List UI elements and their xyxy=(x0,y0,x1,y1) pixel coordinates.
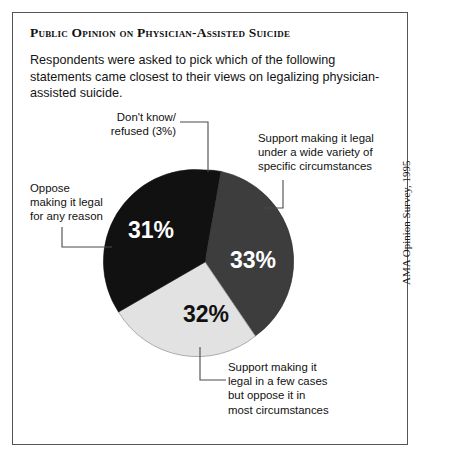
callout-few-cases: Support making it legal in a few cases b… xyxy=(228,360,358,417)
callout-dont-know: Don't know/ refused (3%) xyxy=(86,110,176,138)
callout-oppose: Oppose making it legal for any reason xyxy=(30,181,126,224)
chart-page: Public Opinion on Physician-Assisted Sui… xyxy=(0,0,449,467)
source-credit: AMA Opinion Survey, 1995 xyxy=(400,160,412,285)
chart-subtitle: Respondents were asked to pick which of … xyxy=(30,52,382,102)
callout-wide-variety: Support making it legal under a wide var… xyxy=(258,131,384,174)
page-title: Public Opinion on Physician-Assisted Sui… xyxy=(30,25,370,41)
